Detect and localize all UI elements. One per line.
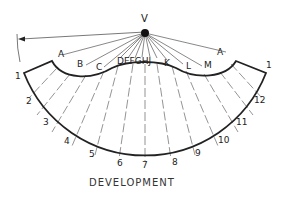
cone-development-diagram: V A B C DEFGHJ K L M A 1 2 3 4 5 6 7 8 9… [0, 0, 289, 200]
label-3: 3 [43, 117, 49, 127]
arrowhead-icon [18, 37, 25, 42]
label-12: 12 [254, 95, 265, 105]
label-M: M [204, 60, 212, 70]
label-K: K [164, 58, 171, 68]
label-10: 10 [218, 135, 230, 145]
label-9: 9 [195, 148, 201, 158]
label-6: 6 [117, 158, 123, 168]
label-4: 4 [64, 136, 70, 146]
caption-development: DEVELOPMENT [89, 177, 175, 188]
label-2: 2 [26, 96, 32, 106]
label-1-right: 1 [266, 60, 272, 70]
label-DEFGHJ: DEFGHJ [117, 56, 151, 66]
radius-arc [17, 34, 20, 62]
label-A-right: A [217, 47, 224, 57]
label-C: C [96, 62, 102, 72]
label-7: 7 [142, 160, 148, 170]
label-B: B [77, 59, 83, 69]
label-L: L [186, 61, 191, 71]
lower-element-lines [29, 64, 262, 161]
vertex-label: V [141, 13, 148, 24]
label-A-left: A [58, 49, 65, 59]
label-1-left: 1 [15, 71, 21, 81]
label-11: 11 [236, 117, 247, 127]
vertex-point [141, 29, 149, 37]
label-5: 5 [89, 149, 95, 159]
label-8: 8 [172, 157, 178, 167]
